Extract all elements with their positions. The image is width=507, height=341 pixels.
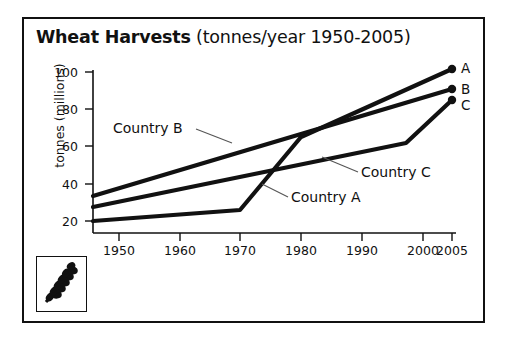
annotation-country-b: Country B (113, 120, 183, 136)
leader-line-country-c (322, 157, 358, 172)
x-tick-label-1960: 1960 (157, 243, 203, 258)
y-tick-label-80: 80 (44, 102, 78, 117)
series-line-country-c (93, 100, 452, 207)
y-tick-label-100: 100 (44, 65, 78, 80)
wheat-logo-box (36, 256, 87, 312)
y-axis-ticks (85, 72, 93, 221)
series-end-label-b: B (461, 81, 470, 97)
wheat-sheaf-icon (37, 257, 85, 310)
y-tick-label-40: 40 (44, 177, 78, 192)
x-tick-label-1950: 1950 (96, 243, 142, 258)
x-tick-label-1970: 1970 (217, 243, 263, 258)
annotation-country-a: Country A (291, 189, 361, 205)
y-tick-label-60: 60 (44, 139, 78, 154)
y-tick-label-20: 20 (44, 214, 78, 229)
x-tick-label-1990: 1990 (339, 243, 385, 258)
x-tick-label-2005: 2005 (429, 243, 475, 258)
leader-line-country-b (196, 129, 232, 143)
x-tick-label-1980: 1980 (278, 243, 324, 258)
series-endpoint-a (448, 65, 456, 73)
series-end-label-c: C (461, 97, 470, 113)
series-endpoint-c (448, 96, 456, 104)
series-endpoint-b (448, 85, 456, 93)
leader-line-country-a (262, 184, 288, 197)
x-axis-ticks (119, 233, 452, 241)
annotation-country-c: Country C (361, 164, 431, 180)
series-end-label-a: A (461, 60, 470, 76)
